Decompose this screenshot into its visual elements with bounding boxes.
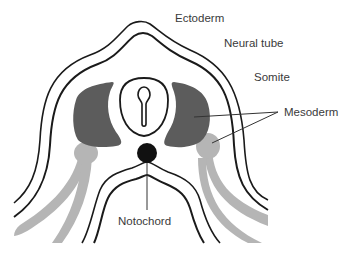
label-somite: Somite — [254, 71, 290, 83]
endoderm-inner-line — [94, 175, 204, 243]
label-ectoderm: Ectoderm — [175, 12, 224, 24]
mesoderm-leader-line-2 — [212, 112, 278, 143]
label-notochord: Notochord — [118, 215, 171, 227]
notochord — [137, 143, 157, 163]
embryo-cross-section-diagram: Ectoderm Neural tube Somite Mesoderm Not… — [0, 0, 357, 263]
somite-right — [164, 82, 210, 147]
somite-left — [73, 82, 121, 147]
label-neural-tube: Neural tube — [224, 37, 283, 49]
label-mesoderm: Mesoderm — [284, 106, 338, 118]
